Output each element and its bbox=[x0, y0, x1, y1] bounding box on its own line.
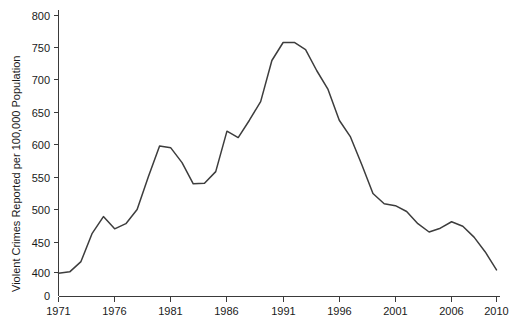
violent-crime-rate-line bbox=[59, 42, 497, 273]
y-tick-label: 400 bbox=[32, 267, 50, 279]
y-tick-label: 500 bbox=[32, 204, 50, 216]
line-chart: Violent Crimes Reported per 100,000 Popu… bbox=[0, 0, 530, 325]
x-tick-1976: 1976 bbox=[102, 297, 126, 318]
x-tick-1986: 1986 bbox=[214, 297, 238, 318]
y-tick-400: 400 bbox=[32, 267, 59, 279]
y-tick-zero: 0 bbox=[44, 290, 50, 302]
y-tick-label: 750 bbox=[32, 42, 50, 54]
x-tick-label: 1971 bbox=[46, 305, 70, 317]
y-tick-label: 700 bbox=[32, 74, 50, 86]
y-tick-500: 500 bbox=[32, 204, 59, 216]
x-tick-1991: 1991 bbox=[271, 297, 295, 318]
x-tick-label: 1981 bbox=[158, 305, 182, 317]
x-tick-1996: 1996 bbox=[327, 297, 351, 318]
x-tick-label: 2010 bbox=[484, 305, 508, 317]
y-tick-600: 600 bbox=[32, 139, 59, 151]
y-tick-label: 650 bbox=[32, 107, 50, 119]
y-tick-550: 550 bbox=[32, 172, 59, 184]
y-tick-650: 650 bbox=[32, 107, 59, 119]
x-tick-label: 1986 bbox=[214, 305, 238, 317]
x-tick-label: 2006 bbox=[439, 305, 463, 317]
y-tick-label: 450 bbox=[32, 237, 50, 249]
x-tick-label: 1991 bbox=[271, 305, 295, 317]
y-tick-700: 700 bbox=[32, 74, 59, 86]
x-tick-2006: 2006 bbox=[439, 297, 463, 318]
y-axis-ticks: 800 750 700 650 600 550 bbox=[32, 10, 59, 303]
chart-container: Violent Crimes Reported per 100,000 Popu… bbox=[0, 0, 530, 325]
y-tick-450: 450 bbox=[32, 237, 59, 249]
y-tick-label: 600 bbox=[32, 139, 50, 151]
x-tick-2010: 2010 bbox=[484, 297, 508, 318]
x-tick-label: 1996 bbox=[327, 305, 351, 317]
y-tick-label: 550 bbox=[32, 172, 50, 184]
x-tick-label: 2001 bbox=[383, 305, 407, 317]
y-tick-800: 800 bbox=[32, 10, 59, 22]
x-tick-1981: 1981 bbox=[158, 297, 182, 318]
y-tick-750: 750 bbox=[32, 42, 59, 54]
x-tick-2001: 2001 bbox=[383, 297, 407, 318]
y-tick-label: 800 bbox=[32, 10, 50, 22]
y-zero-label: 0 bbox=[44, 290, 50, 302]
y-axis-title: Violent Crimes Reported per 100,000 Popu… bbox=[10, 56, 22, 292]
x-tick-label: 1976 bbox=[102, 305, 126, 317]
x-axis-ticks: 1971 1976 1981 1986 1991 1996 bbox=[46, 297, 508, 318]
